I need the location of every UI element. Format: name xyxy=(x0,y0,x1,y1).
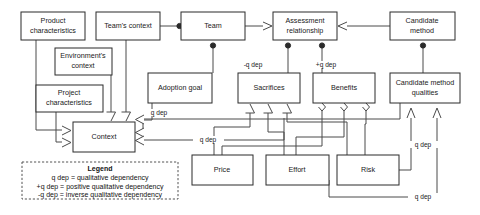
edge-team-assessment xyxy=(245,22,272,30)
legend: Legend q dep = qualitative dependency +q… xyxy=(22,162,178,199)
node-team[interactable]: Team xyxy=(181,12,245,40)
edge-effort-sacrifices xyxy=(264,104,285,155)
node-label-line1: Adoption goal xyxy=(158,83,202,92)
node-label-line1: Context xyxy=(92,132,117,141)
node-context[interactable]: Context xyxy=(73,122,135,152)
edge-environments-context-context xyxy=(107,75,116,121)
node-label-line2: qualities xyxy=(412,88,439,97)
node-teams-context[interactable]: Team's context xyxy=(96,12,160,40)
edge-adoption-goal-team xyxy=(210,43,215,73)
diagram-canvas: -q dep +q dep q dep q dep q dep q dep -q… xyxy=(0,0,480,215)
edge-label-sacrifices-assessment-top: -q dep xyxy=(244,61,263,69)
edge-sacrifices-assessment xyxy=(285,43,290,73)
edge-risk-benefits xyxy=(363,103,370,155)
node-label-line1: Benefits xyxy=(331,83,357,92)
node-label-line2: context xyxy=(71,61,94,70)
node-label-line1: Product xyxy=(41,16,66,25)
node-candidate-method-qualities[interactable]: Candidate method qualities xyxy=(390,73,460,103)
node-label-line1: Team xyxy=(204,21,222,30)
node-label-line1: Team's context xyxy=(104,21,152,30)
node-label-line2: method xyxy=(410,26,434,35)
node-environments-context[interactable]: Environment's context xyxy=(55,48,112,75)
node-risk[interactable]: Risk xyxy=(337,155,399,185)
edge-label-benefits-assessment-top: +q dep xyxy=(316,61,337,69)
node-assessment-relationship[interactable]: Assessment relationship xyxy=(273,12,337,40)
node-label-line1: Environment's xyxy=(60,51,106,60)
edge-label-sacrifices-context-top: q dep xyxy=(200,136,217,144)
node-label-line2: relationship xyxy=(287,26,324,35)
node-label-line1: Project xyxy=(58,88,80,97)
legend-line-1: q dep = qualitative dependency xyxy=(51,174,149,182)
node-label-line1: Assessment xyxy=(285,16,324,25)
edge-price-sacrifices xyxy=(214,104,255,155)
node-label-line1: Effort xyxy=(288,165,305,174)
node-label-line1: Candidate xyxy=(406,16,439,25)
edge-label-risk-qualities-top: q dep xyxy=(415,141,432,149)
node-candidate-method[interactable]: Candidate method xyxy=(390,12,455,40)
node-product-characteristics[interactable]: Product characteristics xyxy=(21,12,85,40)
node-label-line2: characteristics xyxy=(46,98,92,107)
edge-label-effort-qualities-top: q dep xyxy=(415,193,432,201)
node-label-line1: Candidate method xyxy=(396,78,455,87)
edge-qualities-candidate-method xyxy=(420,43,425,73)
legend-line-2: +q dep = positive qualitative dependency xyxy=(37,183,164,191)
node-price[interactable]: Price xyxy=(192,155,253,185)
edge-risk-qualities xyxy=(399,108,415,170)
node-label-line1: Price xyxy=(214,165,230,174)
edge-candidate-method-assessment xyxy=(338,22,390,30)
legend-title: Legend xyxy=(88,165,113,173)
edge-teams-context-context xyxy=(122,40,131,121)
edge-teams-context-team xyxy=(160,23,182,28)
node-label-line1: Risk xyxy=(361,165,375,174)
node-effort[interactable]: Effort xyxy=(266,155,329,185)
node-benefits[interactable]: Benefits xyxy=(313,73,375,103)
edge-price-benefits xyxy=(222,103,326,155)
legend-line-3: -q dep = inverse qualitative dependency xyxy=(38,191,162,199)
node-label-line2: characteristics xyxy=(30,26,76,35)
node-label-line1: Sacrifices xyxy=(253,83,285,92)
node-project-characteristics[interactable]: Project characteristics xyxy=(36,85,103,112)
edge-risk-sacrifices xyxy=(283,104,348,155)
edge-benefits-assessment xyxy=(319,43,324,73)
node-sacrifices[interactable]: Sacrifices xyxy=(238,73,300,103)
edge-label-adoption-context-top: q dep xyxy=(151,109,168,117)
node-adoption-goal[interactable]: Adoption goal xyxy=(148,73,212,103)
